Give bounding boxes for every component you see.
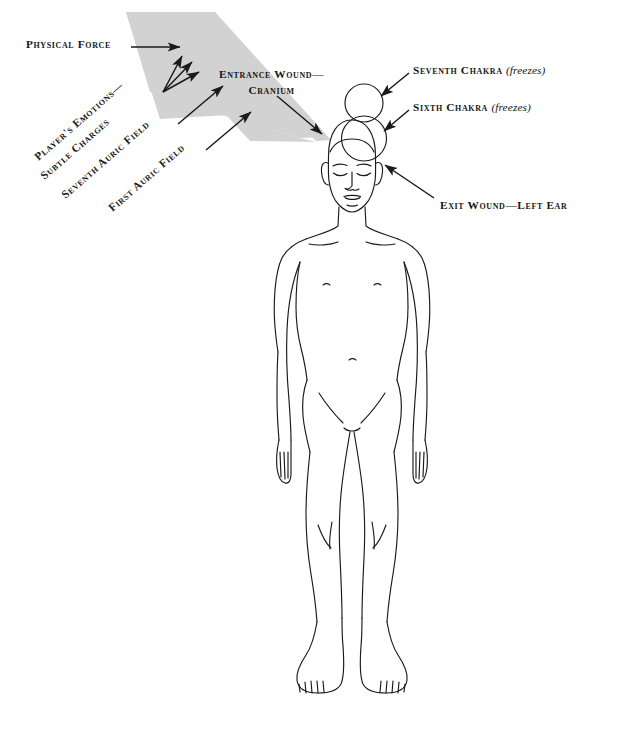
figure-canvas: Physical Force Entrance Wound— Cranium S… (0, 0, 625, 747)
arrow-exit-wound (385, 165, 434, 198)
hip-left-outline (394, 380, 401, 452)
leg-left-outer (387, 452, 398, 622)
clavicle-left (366, 242, 395, 245)
toes-right (299, 681, 324, 693)
chin-crease (347, 205, 358, 206)
eye-right-closed (334, 173, 348, 176)
nipple-left (374, 284, 381, 285)
eyebrow-left (357, 164, 371, 166)
clavicle-right (309, 242, 338, 245)
crotch (344, 428, 360, 431)
fingers-right (280, 452, 288, 479)
inguinal-right (319, 393, 343, 423)
knee-left-detail-2 (372, 522, 374, 549)
neck-right (306, 207, 339, 239)
knee-right-detail-2 (330, 522, 332, 549)
leg-right-inner (339, 432, 350, 618)
label-exit-wound: Exit Wound—Left Ear (440, 198, 567, 212)
flank-right (296, 262, 307, 380)
flank-left (397, 262, 408, 380)
arm-left-inner (404, 262, 417, 440)
mouth-lower (345, 198, 360, 200)
hairline (330, 139, 374, 152)
arm-right-outer (277, 352, 279, 440)
nose-right-nostril (346, 189, 353, 190)
label-seventh-chakra-note: (freezes) (506, 64, 546, 76)
hip-right-outline (303, 380, 310, 452)
fingers-left (416, 452, 424, 479)
nose-left-nostril (353, 189, 360, 190)
knee-left-detail (373, 525, 386, 548)
sixth-chakra-circle (342, 116, 387, 161)
foot-left (360, 618, 407, 693)
ear-right-viewer (321, 162, 328, 185)
foot-right (297, 618, 344, 693)
neck-left (365, 207, 398, 239)
navel (349, 359, 356, 360)
nipple-right (323, 284, 330, 285)
arrow-sixth-chakra (384, 110, 409, 131)
label-seventh-chakra-text: Seventh Chakra (413, 64, 506, 76)
arm-right-inner (287, 262, 300, 440)
knee-right-detail (318, 525, 331, 548)
label-sixth-chakra: Sixth Chakra (freezes) (413, 100, 531, 114)
label-sixth-chakra-note: (freezes) (491, 101, 531, 113)
eyebrow-right (333, 164, 347, 166)
label-sixth-chakra-text: Sixth Chakra (413, 101, 491, 113)
toes-left (380, 681, 405, 693)
label-entrance-wound: Entrance Wound— Cranium (219, 66, 324, 98)
leg-right-outer (306, 452, 317, 622)
eye-left-closed (357, 173, 371, 176)
arrow-seventh-chakra (381, 73, 409, 96)
mouth (344, 195, 361, 196)
label-physical-force: Physical Force (26, 37, 111, 51)
label-seventh-chakra: Seventh Chakra (freezes) (413, 63, 545, 77)
head-outline (328, 120, 375, 212)
arm-left-outer (425, 352, 427, 440)
ear-left-viewer (376, 162, 383, 185)
leg-left-inner (354, 432, 365, 618)
inguinal-left (361, 393, 385, 423)
